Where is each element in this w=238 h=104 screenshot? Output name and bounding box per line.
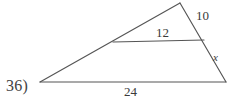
- label-unknown-side-x: x: [213, 52, 218, 63]
- midsegment-line: [113, 40, 204, 42]
- triangle-upper-left-side: [40, 3, 180, 82]
- geometry-figure: 36) 10 12 x 24: [0, 0, 238, 104]
- label-base: 24: [124, 85, 137, 98]
- problem-number: 36): [6, 78, 28, 94]
- label-midsegment: 12: [156, 26, 169, 39]
- label-upper-right-side: 10: [196, 9, 209, 22]
